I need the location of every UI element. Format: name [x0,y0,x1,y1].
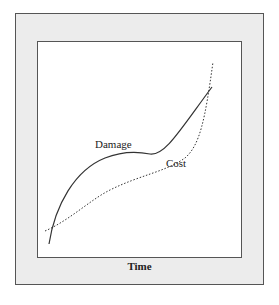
damage-label: Damage [95,138,132,150]
x-axis-label: Time [0,260,279,272]
damage-curve [49,87,212,244]
cost-label: Cost [166,157,186,169]
